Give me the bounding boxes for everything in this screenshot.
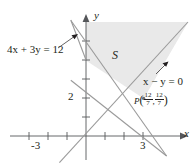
label-region-S: S <box>112 49 118 61</box>
y-tick-label-2: 2 <box>68 91 74 102</box>
x-tick-label-minus-3: -3 <box>31 140 40 151</box>
label-line-x-minus-y-0: x − y = 0 <box>143 76 183 87</box>
axis-label-x: x <box>184 128 189 139</box>
line-4x-3y-12-upper <box>71 20 86 60</box>
label-point-P: P(127,127) <box>134 92 168 108</box>
axis-label-y: y <box>94 10 99 21</box>
point-y-fraction: 127 <box>155 92 164 108</box>
y-axis-arrowhead <box>83 14 90 22</box>
label-line-4x-3y-12: 4x + 3y = 12 <box>7 44 63 55</box>
point-close-paren: ) <box>164 93 168 107</box>
figure-canvas: 4x + 3y = 12 x − y = 0 S P(127,127) x y … <box>0 0 194 167</box>
point-x-fraction: 127 <box>144 92 153 108</box>
x-tick-label-3: 3 <box>140 140 146 151</box>
